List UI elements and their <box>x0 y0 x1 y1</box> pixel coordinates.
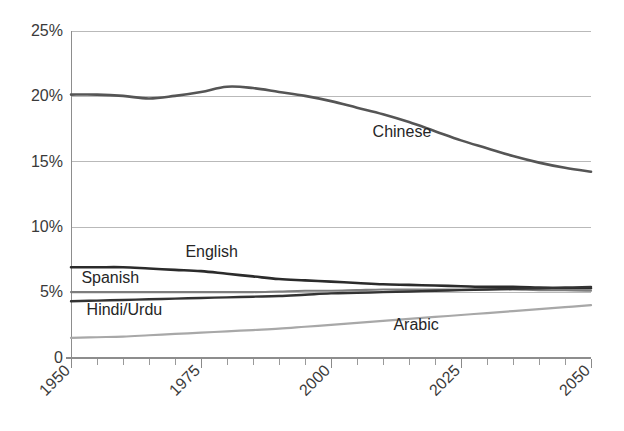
series-label-hindi-urdu: Hindi/Urdu <box>87 301 163 318</box>
y-axis-label-15pct: 15% <box>31 153 63 170</box>
language-share-line-chart: 05%10%15%20%25% 19501975200020252050 Chi… <box>0 0 624 431</box>
series-label-chinese: Chinese <box>373 123 432 140</box>
y-axis-label-10pct: 10% <box>31 218 63 235</box>
chart-canvas: 05%10%15%20%25% 19501975200020252050 Chi… <box>0 0 624 431</box>
y-axis-label-20pct: 20% <box>31 87 63 104</box>
series-label-arabic: Arabic <box>393 316 438 333</box>
chart-background <box>0 0 624 431</box>
y-axis-label-5pct: 5% <box>40 283 63 300</box>
y-axis-label-25pct: 25% <box>31 22 63 39</box>
series-label-english: English <box>185 243 237 260</box>
series-label-spanish: Spanish <box>81 269 139 286</box>
